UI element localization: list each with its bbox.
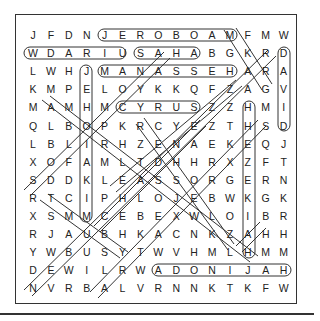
grid-cell[interactable]: S bbox=[42, 207, 60, 225]
grid-cell[interactable]: O bbox=[221, 207, 239, 225]
grid-cell[interactable]: S bbox=[131, 44, 149, 62]
grid-cell[interactable]: S bbox=[185, 62, 203, 80]
grid-cell[interactable]: E bbox=[114, 171, 132, 189]
grid-cell[interactable]: R bbox=[24, 225, 42, 243]
grid-cell[interactable]: B bbox=[96, 225, 114, 243]
grid-cell[interactable]: H bbox=[239, 243, 257, 261]
grid-cell[interactable]: O bbox=[42, 153, 60, 171]
grid-cell[interactable]: L bbox=[203, 207, 221, 225]
grid-cell[interactable]: R bbox=[257, 62, 275, 80]
grid-cell[interactable]: C bbox=[149, 117, 167, 135]
grid-cell[interactable]: T bbox=[131, 153, 149, 171]
grid-cell[interactable]: R bbox=[131, 117, 149, 135]
grid-cell[interactable]: V bbox=[167, 243, 185, 261]
grid-cell[interactable]: G bbox=[221, 171, 239, 189]
grid-cell[interactable]: H bbox=[185, 243, 203, 261]
grid-cell[interactable]: X bbox=[221, 153, 239, 171]
grid-cell[interactable]: G bbox=[257, 80, 275, 98]
grid-cell[interactable]: L bbox=[42, 117, 60, 135]
grid-cell[interactable]: B bbox=[257, 207, 275, 225]
grid-cell[interactable]: I bbox=[221, 261, 239, 279]
grid-cell[interactable]: J bbox=[96, 26, 114, 44]
grid-cell[interactable]: Y bbox=[114, 243, 132, 261]
grid-cell[interactable]: E bbox=[114, 26, 132, 44]
grid-cell[interactable]: I bbox=[239, 207, 257, 225]
grid-cell[interactable]: V bbox=[275, 80, 293, 98]
grid-cell[interactable]: L bbox=[114, 279, 132, 297]
grid-cell[interactable]: A bbox=[239, 62, 257, 80]
grid-cell[interactable]: W bbox=[24, 44, 42, 62]
grid-cell[interactable]: M bbox=[96, 98, 114, 116]
grid-cell[interactable]: N bbox=[275, 171, 293, 189]
grid-cell[interactable]: H bbox=[114, 135, 132, 153]
grid-cell[interactable]: W bbox=[185, 207, 203, 225]
grid-cell[interactable]: I bbox=[78, 135, 96, 153]
grid-cell[interactable]: M bbox=[78, 207, 96, 225]
grid-cell[interactable]: W bbox=[275, 26, 293, 44]
grid-cell[interactable]: K bbox=[203, 225, 221, 243]
grid-cell[interactable]: A bbox=[275, 62, 293, 80]
grid-cell[interactable]: E bbox=[239, 135, 257, 153]
grid-cell[interactable]: A bbox=[185, 135, 203, 153]
grid-cell[interactable]: Y bbox=[131, 80, 149, 98]
grid-cell[interactable]: X bbox=[167, 207, 185, 225]
grid-cell[interactable]: D bbox=[60, 171, 78, 189]
grid-cell[interactable]: O bbox=[149, 26, 167, 44]
grid-cell[interactable]: L bbox=[24, 62, 42, 80]
grid-cell[interactable]: P bbox=[96, 117, 114, 135]
grid-cell[interactable]: A bbox=[203, 26, 221, 44]
grid-cell[interactable]: H bbox=[221, 62, 239, 80]
grid-cell[interactable]: K bbox=[131, 225, 149, 243]
grid-cell[interactable]: L bbox=[24, 135, 42, 153]
grid-cell[interactable]: X bbox=[24, 153, 42, 171]
grid-cell[interactable]: S bbox=[185, 98, 203, 116]
grid-cell[interactable]: D bbox=[24, 261, 42, 279]
grid-cell[interactable]: Y bbox=[24, 243, 42, 261]
grid-cell[interactable]: M bbox=[203, 243, 221, 261]
grid-cell[interactable]: U bbox=[78, 225, 96, 243]
grid-cell[interactable]: D bbox=[275, 44, 293, 62]
grid-cell[interactable]: F bbox=[203, 80, 221, 98]
grid-cell[interactable]: H bbox=[257, 225, 275, 243]
grid-cell[interactable]: A bbox=[60, 44, 78, 62]
grid-cell[interactable]: K bbox=[24, 80, 42, 98]
grid-cell[interactable]: G bbox=[221, 44, 239, 62]
grid-cell[interactable]: S bbox=[24, 171, 42, 189]
grid-cell[interactable]: A bbox=[185, 44, 203, 62]
grid-cell[interactable]: J bbox=[239, 261, 257, 279]
grid-cell[interactable]: C bbox=[114, 98, 132, 116]
grid-cell[interactable]: K bbox=[275, 189, 293, 207]
grid-cell[interactable]: E bbox=[114, 207, 132, 225]
grid-cell[interactable]: S bbox=[149, 171, 167, 189]
grid-cell[interactable]: J bbox=[24, 26, 42, 44]
grid-cell[interactable]: O bbox=[114, 80, 132, 98]
grid-cell[interactable]: A bbox=[239, 80, 257, 98]
grid-cell[interactable]: X bbox=[24, 207, 42, 225]
grid-cell[interactable]: R bbox=[203, 171, 221, 189]
grid-cell[interactable]: B bbox=[167, 26, 185, 44]
grid-cell[interactable]: U bbox=[78, 243, 96, 261]
grid-cell[interactable]: Z bbox=[221, 80, 239, 98]
grid-cell[interactable]: N bbox=[167, 135, 185, 153]
grid-cell[interactable]: O bbox=[185, 171, 203, 189]
grid-cell[interactable]: I bbox=[275, 98, 293, 116]
grid-cell[interactable]: N bbox=[203, 261, 221, 279]
grid-cell[interactable]: A bbox=[149, 62, 167, 80]
grid-cell[interactable]: A bbox=[78, 153, 96, 171]
grid-cell[interactable]: K bbox=[149, 80, 167, 98]
grid-cell[interactable]: M bbox=[257, 98, 275, 116]
grid-cell[interactable]: R bbox=[149, 98, 167, 116]
grid-cell[interactable]: T bbox=[221, 279, 239, 297]
grid-cell[interactable]: Z bbox=[203, 117, 221, 135]
grid-cell[interactable]: M bbox=[275, 243, 293, 261]
grid-cell[interactable]: S bbox=[167, 62, 185, 80]
grid-cell[interactable]: B bbox=[203, 44, 221, 62]
grid-cell[interactable]: E bbox=[203, 135, 221, 153]
grid-cell[interactable]: W bbox=[60, 261, 78, 279]
grid-cell[interactable]: R bbox=[257, 44, 275, 62]
grid-cell[interactable]: V bbox=[131, 279, 149, 297]
grid-cell[interactable]: L bbox=[221, 243, 239, 261]
grid-cell[interactable]: H bbox=[60, 62, 78, 80]
grid-cell[interactable]: N bbox=[78, 26, 96, 44]
grid-cell[interactable]: M bbox=[257, 243, 275, 261]
